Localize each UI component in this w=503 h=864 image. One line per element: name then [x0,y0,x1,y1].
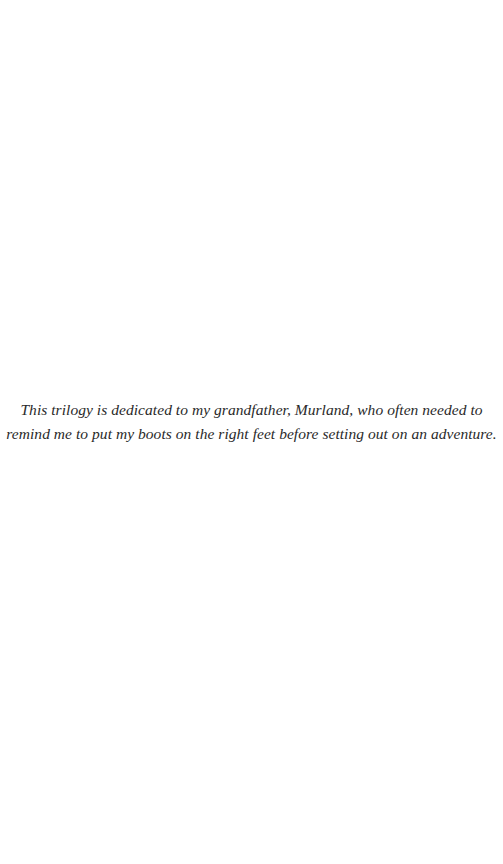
book-page: This trilogy is dedicated to my grandfat… [0,0,503,864]
dedication-line-1: This trilogy is dedicated to my grandfat… [0,398,503,422]
dedication-text: This trilogy is dedicated to my grandfat… [0,398,503,446]
dedication-line-2: remind me to put my boots on the right f… [0,422,503,446]
